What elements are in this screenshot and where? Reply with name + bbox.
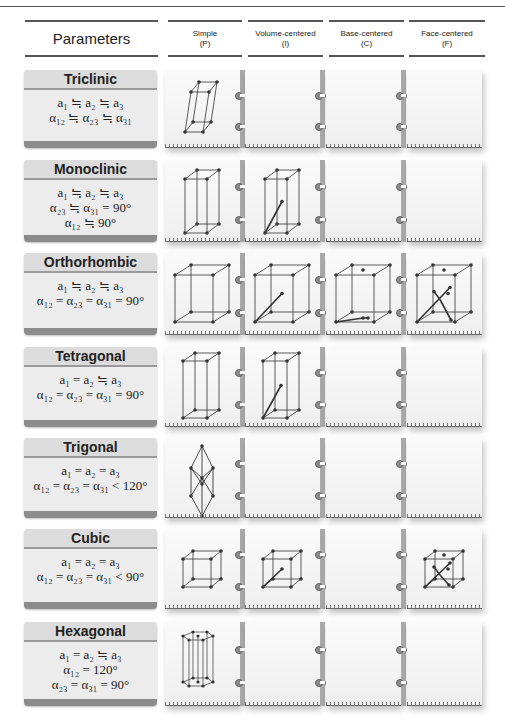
parameter-card: Orthorhombica₁ ≒ a₂ ≒ a₃α₁₂ = α₂₃ = α₃₁ … xyxy=(24,253,157,335)
header-parameters: Parameters xyxy=(25,20,158,57)
parameter-formulas: a₁ = a₂ = a₃α₁₂ = α₂₃ = α₃₁ < 120° xyxy=(24,458,157,493)
perforation-edge xyxy=(407,144,482,148)
perforation-edge xyxy=(165,514,240,518)
formula-line: α₂₃ = α₃₁ = 90° xyxy=(24,677,157,692)
perforation-edge xyxy=(245,702,320,706)
perforation-edge xyxy=(165,331,240,335)
perforation-edge xyxy=(407,702,482,706)
perforation-edge xyxy=(326,238,401,242)
unit-cell-diagram-icon xyxy=(165,622,240,706)
lattice-panel-F xyxy=(407,438,482,518)
perforation-edge xyxy=(245,423,320,427)
header-col-symbol: (I) xyxy=(282,39,290,49)
perforation-edge xyxy=(326,423,401,427)
unit-cell-diagram-icon xyxy=(245,160,320,242)
unit-cell-diagram-icon xyxy=(165,438,240,518)
parameter-card: Monoclinica₁ ≒ a₂ ≒ a₃α₂₃ ≒ α₃₁ = 90°α₁₂… xyxy=(24,160,157,242)
binder-spine xyxy=(320,622,325,706)
header-col-face-centered: Face-centered (F) xyxy=(409,20,485,57)
binder-spine xyxy=(320,253,325,335)
unit-cell-diagram-icon xyxy=(165,253,240,335)
parameter-formulas: a₁ ≒ a₂ ≒ a₃α₁₂ ≒ α₂₃ ≒ α₃₁ xyxy=(24,90,157,125)
system-name: Orthorhombic xyxy=(24,253,157,273)
lattice-panel-P xyxy=(165,622,240,706)
binder-spine xyxy=(401,529,406,609)
header-col-simple: Simple (P) xyxy=(168,20,242,57)
lattice-panel-C xyxy=(326,622,401,706)
formula-line: α₁₂ = α₂₃ = α₃₁ < 120° xyxy=(24,478,157,493)
lattice-panel-F xyxy=(407,347,482,427)
lattice-panel-I xyxy=(245,438,320,518)
perforation-edge xyxy=(326,702,401,706)
system-name: Tetragonal xyxy=(24,347,157,367)
perforation-edge xyxy=(165,238,240,242)
row-tetragonal: Tetragonala₁ = a₂ ≒ a₃α₁₂ = α₂₃ = α₃₁ = … xyxy=(0,347,505,431)
parameter-card: Triclinica₁ ≒ a₂ ≒ a₃α₁₂ ≒ α₂₃ ≒ α₃₁ xyxy=(24,70,157,148)
binder-spine xyxy=(401,622,406,706)
lattice-panel-P xyxy=(165,529,240,609)
header-col-name: Volume-centered xyxy=(255,29,315,39)
binder-spine xyxy=(401,347,406,427)
card-footer-bar xyxy=(24,602,157,609)
parameter-formulas: a₁ = a₂ ≒ a₃α₁₂ = α₂₃ = α₃₁ = 90° xyxy=(24,367,157,402)
binder-spine xyxy=(320,160,325,242)
formula-line: a₁ ≒ a₂ ≒ a₃ xyxy=(24,185,157,200)
perforation-edge xyxy=(326,144,401,148)
formula-line: α₁₂ = α₂₃ = α₃₁ < 90° xyxy=(24,569,157,584)
header-col-base-centered: Base-centered (C) xyxy=(329,20,404,57)
binder-spine xyxy=(320,529,325,609)
perforation-edge xyxy=(326,514,401,518)
perforation-edge xyxy=(165,423,240,427)
perforation-edge xyxy=(165,605,240,609)
formula-line: a₁ = a₂ = a₃ xyxy=(24,554,157,569)
lattice-panel-I xyxy=(245,253,320,335)
parameter-formulas: a₁ = a₂ = a₃α₁₂ = α₂₃ = α₃₁ < 90° xyxy=(24,549,157,584)
card-footer-bar xyxy=(24,699,157,706)
perforation-edge xyxy=(165,144,240,148)
row-monoclinic: Monoclinica₁ ≒ a₂ ≒ a₃α₂₃ ≒ α₃₁ = 90°α₁₂… xyxy=(0,160,505,246)
unit-cell-diagram-icon xyxy=(407,253,482,335)
formula-line: α₁₂ = α₂₃ = α₃₁ = 90° xyxy=(24,387,157,402)
formula-line: a₁ ≒ a₂ ≒ a₃ xyxy=(24,95,157,110)
binder-spine xyxy=(401,160,406,242)
binder-spine xyxy=(320,438,325,518)
header-col-symbol: (P) xyxy=(200,39,211,49)
binder-spine xyxy=(401,438,406,518)
perforation-edge xyxy=(245,144,320,148)
parameter-card: Trigonala₁ = a₂ = a₃α₁₂ = α₂₃ = α₃₁ < 12… xyxy=(24,438,157,518)
lattice-panel-F xyxy=(407,622,482,706)
row-hexagonal: Hexagonala₁ = a₂ ≒ a₃α₁₂ = 120°α₂₃ = α₃₁… xyxy=(0,622,505,710)
unit-cell-diagram-icon xyxy=(165,160,240,242)
formula-line: α₁₂ = 120° xyxy=(24,662,157,677)
lattice-panel-P xyxy=(165,70,240,148)
formula-line: a₁ = a₂ = a₃ xyxy=(24,463,157,478)
system-name: Triclinic xyxy=(24,70,157,90)
system-name: Monoclinic xyxy=(24,160,157,180)
parameter-formulas: a₁ = a₂ ≒ a₃α₁₂ = 120°α₂₃ = α₃₁ = 90° xyxy=(24,642,157,692)
formula-line: a₁ ≒ a₂ ≒ a₃ xyxy=(24,278,157,293)
header-col-name: Base-centered xyxy=(340,29,392,39)
formula-line: a₁ = a₂ ≒ a₃ xyxy=(24,372,157,387)
perforation-edge xyxy=(326,331,401,335)
header-col-symbol: (F) xyxy=(442,39,452,49)
row-cubic: Cubica₁ = a₂ = a₃α₁₂ = α₂₃ = α₃₁ < 90° xyxy=(0,529,505,613)
header-col-name: Face-centered xyxy=(421,29,473,39)
parameter-formulas: a₁ ≒ a₂ ≒ a₃α₂₃ ≒ α₃₁ = 90°α₁₂ ≒ 90° xyxy=(24,180,157,230)
header-col-symbol: (C) xyxy=(361,39,372,49)
unit-cell-diagram-icon xyxy=(165,529,240,609)
header-col-volume-centered: Volume-centered (I) xyxy=(248,20,323,57)
card-footer-bar xyxy=(24,420,157,427)
card-footer-bar xyxy=(24,328,157,335)
card-footer-bar xyxy=(24,511,157,518)
lattice-panel-F xyxy=(407,529,482,609)
unit-cell-diagram-icon xyxy=(165,70,240,148)
perforation-edge xyxy=(245,514,320,518)
top-rule xyxy=(0,6,505,7)
unit-cell-diagram-icon xyxy=(245,529,320,609)
lattice-panel-P xyxy=(165,438,240,518)
unit-cell-diagram-icon xyxy=(245,347,320,427)
header-col-name: Simple xyxy=(193,29,217,39)
lattice-panel-P xyxy=(165,253,240,335)
formula-line: α₁₂ = α₂₃ = α₃₁ = 90° xyxy=(24,293,157,308)
lattice-panel-I xyxy=(245,622,320,706)
